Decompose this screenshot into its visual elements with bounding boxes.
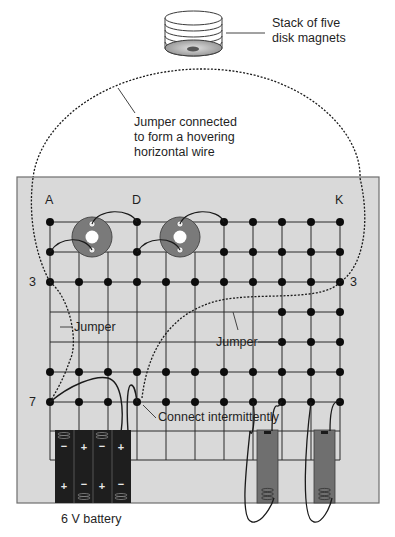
row-label-7: 7 <box>29 395 36 409</box>
svg-text:−: − <box>99 440 105 452</box>
row-label-3-left: 3 <box>29 275 36 289</box>
connect-intermittently-label: Connect intermittently <box>158 410 279 424</box>
hover-jumper-label-line-3: horizontal wire <box>134 145 215 159</box>
column-label-k: K <box>335 193 343 207</box>
row-label-3-right: 3 <box>350 275 357 289</box>
hover-jumper-label-line-1: Jumper connected <box>134 115 237 129</box>
jumper-label-right: Jumper <box>216 335 258 349</box>
circuit-diagram: −+−+ +−+− <box>0 0 395 537</box>
jumper-label-left: Jumper <box>74 320 116 334</box>
svg-text:+: + <box>118 441 124 453</box>
magnet-stack <box>165 11 265 56</box>
battery-pack: −+−+ +−+− <box>55 430 131 503</box>
svg-text:−: − <box>118 478 124 490</box>
hover-jumper-label-line-2: to form a hovering <box>134 130 235 144</box>
magnet-stack-label-line-2: disk magnets <box>272 31 346 45</box>
svg-text:−: − <box>61 440 67 452</box>
svg-text:+: + <box>99 480 105 492</box>
magnet-stack-label-line-1: Stack of five <box>272 16 340 30</box>
column-label-d: D <box>132 193 141 207</box>
battery-label: 6 V battery <box>61 512 121 526</box>
column-label-a: A <box>45 193 53 207</box>
svg-text:−: − <box>81 478 87 490</box>
svg-text:+: + <box>61 480 67 492</box>
svg-text:+: + <box>81 441 87 453</box>
